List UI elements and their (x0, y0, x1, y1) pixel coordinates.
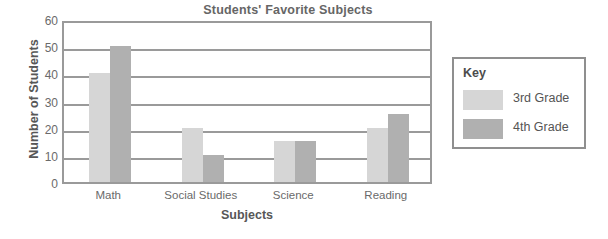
y-tick-40: 40 (36, 69, 58, 81)
bar-social-studies-4th-grade (203, 155, 224, 182)
legend-label-3rd-grade: 3rd Grade (513, 91, 569, 105)
bar-reading-4th-grade (388, 114, 409, 182)
bar-group-reading (367, 23, 409, 182)
legend-entry-3rd-grade: 3rd Grade (463, 89, 579, 111)
legend-swatch-3rd-grade (463, 90, 503, 110)
x-axis-tick-labels: MathSocial StudiesScienceReading (62, 189, 432, 207)
legend-box: Key 3rd Grade 4th Grade (452, 57, 586, 149)
legend-swatch-4th-grade (463, 119, 503, 139)
y-tick-50: 50 (36, 42, 58, 54)
y-tick-30: 30 (36, 97, 58, 109)
legend-title: Key (463, 66, 486, 80)
bar-math-4th-grade (110, 46, 131, 182)
bar-group-social-studies (182, 23, 224, 182)
x-tick-reading: Reading (326, 189, 446, 201)
bar-math-3rd-grade (89, 73, 110, 182)
y-axis-tick-labels: 6050403020100 (30, 0, 58, 239)
bar-social-studies-3rd-grade (182, 128, 203, 182)
chart-title: Students' Favorite Subjects (148, 3, 428, 17)
plot-area (62, 21, 432, 184)
bar-science-4th-grade (295, 141, 316, 182)
y-tick-20: 20 (36, 124, 58, 136)
bar-reading-3rd-grade (367, 128, 388, 182)
bar-science-3rd-grade (274, 141, 295, 182)
bar-chart: Students' Favorite Subjects Number of St… (0, 0, 608, 239)
y-tick-10: 10 (36, 151, 58, 163)
bar-group-math (89, 23, 131, 182)
bar-group-science (274, 23, 316, 182)
bars-layer (64, 23, 430, 182)
y-tick-60: 60 (36, 15, 58, 27)
legend-entry-4th-grade: 4th Grade (463, 118, 579, 140)
x-axis-label: Subjects (62, 208, 432, 222)
legend-label-4th-grade: 4th Grade (513, 120, 569, 134)
